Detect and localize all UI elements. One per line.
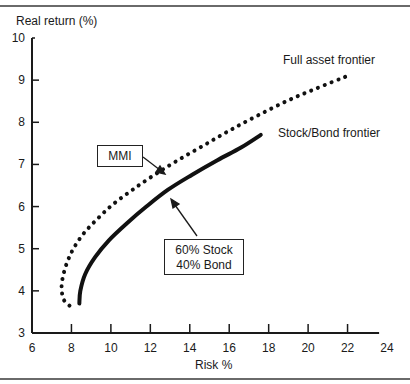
mmi-label-box: MMI [97, 145, 143, 167]
x-tick-label: 14 [183, 341, 197, 355]
x-tick-label: 12 [144, 341, 158, 355]
y-tick-label: 5 [18, 242, 25, 256]
y-tick-label: 9 [18, 73, 25, 87]
x-tick-label: 8 [68, 341, 75, 355]
x-axis-title: Risk % [195, 358, 233, 372]
mix-stock-label: 60% Stock [165, 243, 243, 258]
y-axis-title: Real return (%) [16, 14, 97, 28]
efficient-frontier-chart: Real return (%) 681012141618202224345678… [0, 0, 410, 384]
stock-bond-frontier-label: Stock/Bond frontier [278, 126, 380, 140]
y-tick-label: 10 [12, 31, 26, 45]
mmi-arrow-line [143, 157, 160, 170]
y-tick-label: 6 [18, 200, 25, 214]
y-tick-label: 3 [18, 326, 25, 340]
x-tick-label: 6 [29, 341, 36, 355]
stock-bond-mix-box: 60% Stock 40% Bond [164, 239, 244, 275]
x-tick-label: 24 [380, 341, 394, 355]
x-tick-label: 10 [104, 341, 118, 355]
x-tick-label: 18 [262, 341, 276, 355]
full-frontier-label: Full asset frontier [283, 53, 375, 67]
mmi-label: MMI [108, 149, 131, 163]
y-tick-label: 8 [18, 115, 25, 129]
x-tick-label: 16 [223, 341, 237, 355]
mix-bond-label: 40% Bond [165, 258, 243, 273]
y-tick-label: 7 [18, 157, 25, 171]
x-tick-label: 22 [341, 341, 355, 355]
annotation-arrows [143, 157, 197, 236]
y-tick-label: 4 [18, 284, 25, 298]
mix-arrowhead-icon [171, 199, 179, 208]
mix-arrow-line [175, 205, 197, 236]
x-tick-label: 20 [301, 341, 315, 355]
